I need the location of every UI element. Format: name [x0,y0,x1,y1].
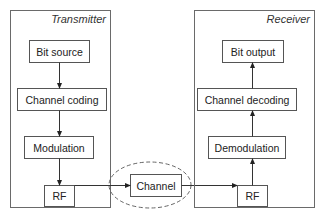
communication-system-diagram: Transmitter Bit source Channel coding Mo… [0,0,321,223]
bit-output-label: Bit output [231,46,275,58]
channel-coding-label: Channel coding [26,94,99,106]
channel-decoding-label: Channel decoding [205,94,290,106]
bit-source-label: Bit source [36,46,83,58]
rx-rf-label: RF [246,190,260,202]
transmitter-group: Transmitter Bit source Channel coding Mo… [11,11,111,208]
channel-label: Channel [136,180,175,192]
demodulation-label: Demodulation [215,142,280,154]
modulation-label: Modulation [33,142,85,154]
receiver-group: Receiver Bit output Channel decoding Dem… [195,11,315,208]
receiver-title: Receiver [267,13,312,25]
tx-rf-label: RF [53,190,67,202]
channel-group: Channel [75,162,238,208]
transmitter-title: Transmitter [51,13,107,25]
